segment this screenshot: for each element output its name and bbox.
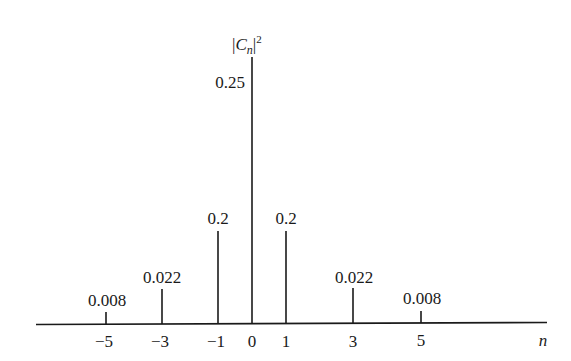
data-label: 0.2 xyxy=(207,209,228,228)
tick-label: 3 xyxy=(349,332,358,351)
x-axis-label: n xyxy=(539,331,548,350)
data-label: 0.25 xyxy=(215,73,245,92)
data-label: 0.008 xyxy=(403,289,441,308)
stem-chart: 0.008 0.022 0.2 0.25 0.2 0.022 0.008 −5 … xyxy=(0,0,571,361)
data-label: 0.2 xyxy=(275,209,296,228)
tick-label: −1 xyxy=(207,332,225,351)
y-axis-label: |Cn|2 xyxy=(232,33,262,57)
tick-label: 1 xyxy=(282,332,291,351)
tick-label: 5 xyxy=(417,331,426,350)
tick-label: −5 xyxy=(95,332,113,351)
tick-label: −3 xyxy=(151,332,169,351)
data-label: 0.022 xyxy=(335,268,373,287)
tick-labels: −5 −3 −1 0 1 3 5 xyxy=(95,331,425,351)
data-labels: 0.008 0.022 0.2 0.25 0.2 0.022 0.008 xyxy=(88,73,441,310)
x-axis xyxy=(36,323,547,325)
data-label: 0.008 xyxy=(88,291,126,310)
tick-label: 0 xyxy=(248,332,257,351)
data-label: 0.022 xyxy=(143,268,181,287)
